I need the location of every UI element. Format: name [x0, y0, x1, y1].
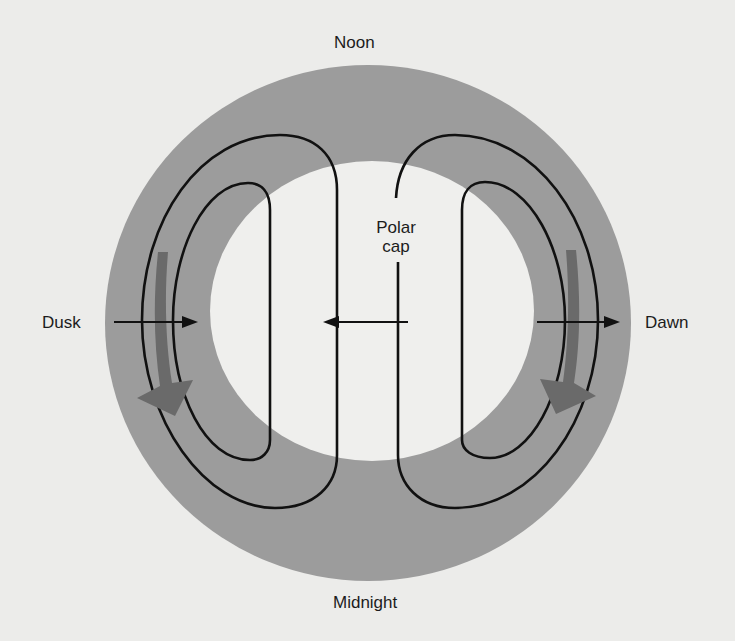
polar-cap-label: Polar cap	[364, 218, 428, 256]
diagram-canvas	[0, 0, 735, 641]
midnight-label: Midnight	[333, 594, 397, 611]
polar-cap-region	[210, 161, 534, 461]
polar-cap-label-line2: cap	[364, 237, 428, 256]
polar-convection-diagram: Noon Midnight Dusk Dawn Polar cap	[0, 0, 735, 641]
polar-cap-label-line1: Polar	[364, 218, 428, 237]
dawn-label: Dawn	[645, 314, 688, 331]
dusk-label: Dusk	[42, 314, 81, 331]
noon-label: Noon	[334, 34, 375, 51]
